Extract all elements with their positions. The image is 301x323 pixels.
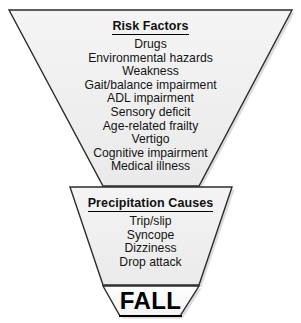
funnel-diagram: Risk Factors Drugs Environmental hazards… [0, 0, 301, 323]
risk-factors-shape [9, 10, 292, 186]
funnel-shapes [0, 0, 301, 323]
precipitating-causes-shape [70, 187, 232, 285]
